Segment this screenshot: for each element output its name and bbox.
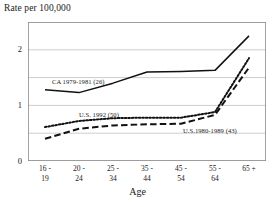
x-axis-title: Age — [0, 186, 275, 198]
x-tick-label-line1: 45 - — [175, 164, 187, 173]
series-lines — [45, 36, 249, 139]
x-tick-label-line1: 20 - — [73, 164, 85, 173]
chart-title: Rate per 100,000 — [4, 3, 71, 14]
y-tick-label: 1 — [18, 101, 22, 110]
series-annotation-us-1980-1989: U.S.1980-1989 (43) — [183, 127, 237, 135]
chart-figure: Rate per 100,000 012 16 -1920 -2425 -343… — [0, 0, 275, 207]
x-tick-label-line1: 25 - — [107, 164, 119, 173]
series-annotation-us-1992: U.S. 1992 (50) — [79, 111, 119, 119]
plot-svg — [28, 22, 266, 161]
x-tick-label: 65 + — [227, 164, 271, 174]
plot-area — [28, 22, 266, 161]
x-tick-label-line1: 65 + — [242, 164, 256, 173]
x-tick-label-line1: 35 - — [141, 164, 153, 173]
x-tick-label-line1: 16 - — [39, 164, 51, 173]
x-tick-label-line1: 55 - — [209, 164, 221, 173]
y-tick-label: 0 — [18, 157, 22, 166]
x-tick-label-line2: 64 — [193, 174, 237, 184]
series-annotation-ca: CA 1979-1981 (26) — [52, 78, 105, 86]
x-axis: 16 -1920 -2425 -3435 -4445 -5455 -6465 + — [28, 164, 266, 188]
y-axis: 012 — [0, 22, 26, 161]
y-tick-label: 2 — [18, 45, 22, 54]
